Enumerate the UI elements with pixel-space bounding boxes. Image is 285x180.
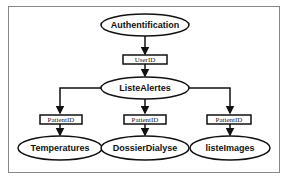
edge-label-patientid-2: PatientID: [124, 115, 166, 124]
node-label: Temperatures: [31, 143, 90, 153]
node-liste-images: listeImages: [190, 136, 270, 160]
edge-label-patientid-1: PatientID: [40, 115, 82, 124]
node-temperatures: Temperatures: [18, 136, 102, 160]
diagram-canvas: Authentification UserID ListeAlertes Pat…: [0, 0, 285, 180]
node-liste-alertes: ListeAlertes: [101, 77, 189, 99]
edge-label-text: PatientID: [216, 116, 243, 124]
node-label: listeImages: [205, 143, 254, 153]
edge-label-patientid-3: PatientID: [207, 115, 251, 124]
node-label: Authentification: [111, 20, 180, 30]
node-label: DossierDialyse: [113, 143, 178, 153]
node-label: ListeAlertes: [119, 83, 171, 93]
edge-label-text: PatientID: [48, 116, 75, 124]
node-authentification: Authentification: [101, 14, 189, 36]
edge-label-text: PatientID: [132, 116, 159, 124]
edge-label-userid: UserID: [123, 55, 167, 64]
node-dossier-dialyse: DossierDialyse: [101, 136, 189, 160]
edge-label-text: UserID: [135, 56, 156, 64]
